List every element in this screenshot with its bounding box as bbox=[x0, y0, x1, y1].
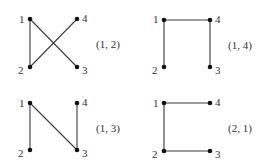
node-4 bbox=[208, 101, 213, 106]
panel-2-1: 1 2 3 4 (2, 1) bbox=[152, 96, 252, 160]
node-label-2: 2 bbox=[18, 64, 24, 76]
node-2 bbox=[28, 148, 33, 153]
node-4 bbox=[75, 101, 80, 106]
edge-1-3 bbox=[30, 103, 77, 150]
panel-caption: (1, 3) bbox=[96, 122, 120, 135]
panel-caption: (1, 4) bbox=[228, 39, 252, 52]
node-3 bbox=[75, 65, 80, 70]
node-2 bbox=[162, 149, 167, 154]
node-3 bbox=[75, 148, 80, 153]
node-1 bbox=[162, 18, 167, 23]
panel-caption: (1, 2) bbox=[96, 38, 120, 51]
node-label-3: 3 bbox=[82, 147, 88, 159]
node-label-3: 3 bbox=[215, 64, 221, 76]
node-2 bbox=[162, 65, 167, 70]
node-4 bbox=[75, 17, 80, 22]
node-label-2: 2 bbox=[152, 148, 158, 160]
node-3 bbox=[208, 65, 213, 70]
node-label-1: 1 bbox=[153, 13, 159, 25]
node-1 bbox=[162, 101, 167, 106]
node-label-2: 2 bbox=[152, 64, 158, 76]
node-label-1: 1 bbox=[19, 97, 25, 109]
panel-caption: (2, 1) bbox=[228, 122, 252, 135]
node-label-2: 2 bbox=[18, 147, 24, 159]
node-label-4: 4 bbox=[82, 96, 88, 108]
node-label-3: 3 bbox=[82, 64, 88, 76]
node-2 bbox=[28, 65, 33, 70]
node-1 bbox=[28, 17, 33, 22]
node-label-4: 4 bbox=[82, 12, 88, 24]
node-label-4: 4 bbox=[215, 96, 221, 108]
panel-1-3: 1 2 3 4 (1, 3) bbox=[18, 96, 120, 159]
panel-1-2: 1 2 3 4 (1, 2) bbox=[18, 12, 120, 76]
node-label-4: 4 bbox=[215, 13, 221, 25]
node-label-3: 3 bbox=[215, 148, 221, 160]
node-4 bbox=[208, 18, 213, 23]
node-1 bbox=[28, 101, 33, 106]
node-label-1: 1 bbox=[19, 13, 25, 25]
spanning-trees-diagram: 1 2 3 4 (1, 2) 1 2 3 4 (1, 4) 1 2 3 4 (1… bbox=[0, 0, 263, 168]
node-3 bbox=[208, 149, 213, 154]
node-label-1: 1 bbox=[153, 97, 159, 109]
panel-1-4: 1 2 3 4 (1, 4) bbox=[152, 13, 252, 76]
